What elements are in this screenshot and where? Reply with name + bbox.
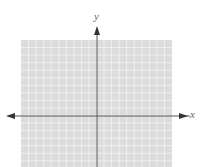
coordinate-plane [0,0,203,167]
x-axis-left-arrow-icon [6,113,15,119]
y-axis-label: y [94,10,99,22]
x-axis-label: x [190,108,195,120]
x-axis-right-arrow-icon [179,113,188,119]
y-axis-up-arrow-icon [94,26,100,35]
